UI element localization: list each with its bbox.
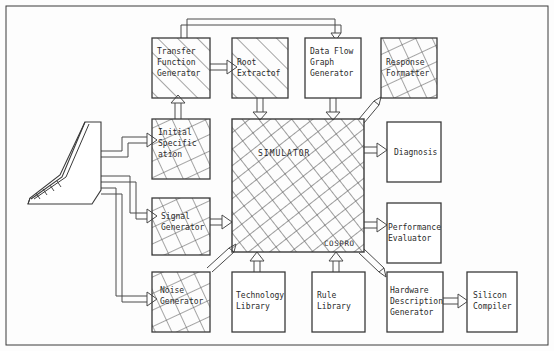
connector-dfg-to-simulator <box>326 98 340 120</box>
workstation-terminal-icon <box>28 122 101 204</box>
block-layer <box>152 38 517 332</box>
block-response-formatter[interactable] <box>381 38 437 98</box>
block-transfer-function-generator[interactable] <box>152 38 210 98</box>
block-silicon-compiler[interactable] <box>467 272 517 332</box>
block-hardware-description-generator[interactable] <box>387 272 443 332</box>
block-diagnosis[interactable] <box>387 122 441 182</box>
block-data-flow-graph-generator[interactable] <box>305 38 361 98</box>
connector-rule-library-to-simulator <box>329 252 343 272</box>
connector-terminal-to-initial-specification <box>101 133 157 157</box>
connector-root-extractor-to-simulator <box>253 98 267 120</box>
block-root-extractor[interactable] <box>232 38 288 98</box>
block-rule-library[interactable] <box>312 272 365 332</box>
block-simulator[interactable] <box>232 119 364 252</box>
block-signal-generator[interactable] <box>152 198 210 255</box>
connector-simulator-to-performance-evaluator <box>364 218 387 232</box>
block-performance-evaluator[interactable] <box>387 203 441 263</box>
connector-simulator-to-diagnosis <box>364 143 387 157</box>
connector-terminal-to-noise-generator <box>101 188 157 306</box>
connector-terminal-to-signal-generator <box>101 176 157 223</box>
connector-hdg-to-silicon-compiler <box>443 294 468 308</box>
block-noise-generator[interactable] <box>152 272 210 332</box>
block-initial-specification[interactable] <box>152 119 210 179</box>
connector-technology-library-to-simulator <box>250 252 264 272</box>
connector-signal-generator-to-simulator <box>210 215 232 229</box>
diagram-svg <box>0 0 554 351</box>
block-technology-library[interactable] <box>232 272 285 332</box>
connector-tfg-feedback-to-dfg <box>181 19 341 40</box>
diagram-canvas: Transfer Function Generator Root Extract… <box>0 0 554 351</box>
